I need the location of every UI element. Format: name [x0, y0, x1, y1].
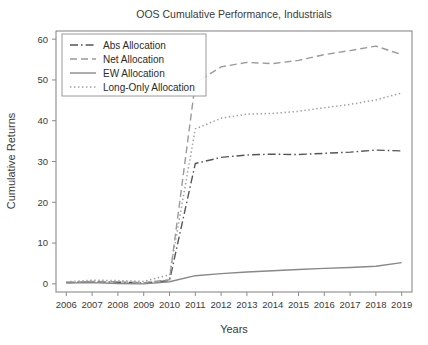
series-line-long-only-allocation [66, 93, 401, 282]
y-axis-title: Cumulative Returns [5, 112, 17, 209]
x-tick-label: 2006 [56, 299, 77, 310]
x-tick-label: 2009 [133, 299, 154, 310]
x-tick-label: 2012 [211, 299, 232, 310]
legend: Abs AllocationNet AllocationEW Allocatio… [62, 34, 206, 96]
line-chart: OOS Cumulative Performance, Industrials … [0, 0, 428, 345]
page-title: OOS Cumulative Performance, Industrials [136, 8, 332, 20]
y-tick-label: 0 [43, 278, 48, 289]
y-tick-label: 30 [37, 156, 48, 167]
legend-label-4: Long-Only Allocation [103, 82, 195, 93]
legend-label-1: Abs Allocation [103, 40, 166, 51]
x-tick-label: 2010 [159, 299, 180, 310]
series-line-ew-allocation [66, 263, 401, 284]
x-tick-label: 2007 [82, 299, 103, 310]
x-tick-label: 2014 [262, 299, 283, 310]
x-tick-label: 2017 [340, 299, 361, 310]
legend-label-3: EW Allocation [103, 68, 165, 79]
legend-label-2: Net Allocation [103, 54, 164, 65]
y-tick-label: 40 [37, 115, 48, 126]
x-tick-label: 2013 [236, 299, 257, 310]
x-tick-label: 2019 [391, 299, 412, 310]
x-tick-label: 2015 [288, 299, 309, 310]
x-axis-title: Years [220, 323, 248, 335]
y-tick-label: 50 [37, 74, 48, 85]
x-tick-label: 2016 [314, 299, 335, 310]
x-tick-label: 2011 [185, 299, 205, 310]
x-tick-label: 2008 [107, 299, 128, 310]
chart-figure: OOS Cumulative Performance, Industrials … [0, 0, 428, 345]
x-axis-ticks: 2006200720082009201020112012201320142015… [56, 292, 413, 310]
y-tick-label: 60 [37, 34, 48, 45]
x-tick-label: 2018 [365, 299, 386, 310]
y-axis-ticks: 0102030405060 [37, 34, 56, 290]
y-tick-label: 10 [37, 237, 48, 248]
series-line-abs-allocation [66, 150, 401, 283]
y-tick-label: 20 [37, 197, 48, 208]
